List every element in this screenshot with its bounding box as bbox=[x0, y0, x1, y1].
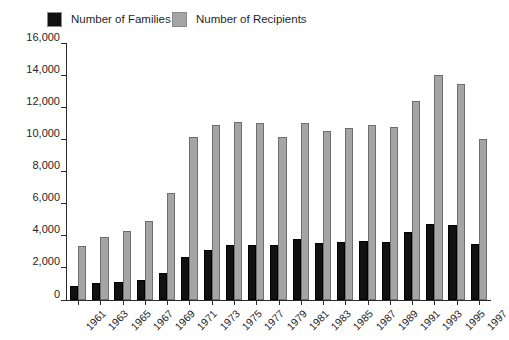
bar-families bbox=[159, 273, 167, 300]
bar-recipients bbox=[234, 122, 242, 300]
bar-recipients bbox=[123, 231, 131, 300]
bar-recipients bbox=[212, 125, 220, 300]
bar-families bbox=[404, 232, 412, 300]
bar-recipients bbox=[167, 193, 175, 300]
bar-group bbox=[379, 43, 401, 300]
x-axis-tick-mark bbox=[301, 301, 302, 305]
x-axis-tick-mark bbox=[390, 301, 391, 305]
x-axis-tick-label: 1967 bbox=[151, 308, 175, 332]
y-axis: 02,0004,0006,0008,00010,00012,00014,0001… bbox=[0, 43, 66, 300]
bar-recipients bbox=[301, 123, 309, 300]
bar-recipients bbox=[78, 246, 86, 300]
y-axis-tick-label: 10,000 bbox=[26, 128, 66, 139]
bar-families bbox=[471, 244, 479, 300]
bar-recipients bbox=[457, 84, 465, 300]
bar-group bbox=[334, 43, 356, 300]
bar-families bbox=[248, 245, 256, 300]
bar-group bbox=[468, 43, 490, 300]
x-axis-tick-mark bbox=[123, 301, 124, 305]
x-axis-tick-label: 1977 bbox=[262, 308, 286, 332]
bar-group bbox=[201, 43, 223, 300]
x-axis-tick-label: 1965 bbox=[128, 308, 152, 332]
bar-families bbox=[137, 280, 145, 300]
x-axis-tick-mark bbox=[212, 301, 213, 305]
x-axis-tick-mark bbox=[189, 301, 190, 305]
bars-layer bbox=[67, 43, 490, 300]
x-axis-tick-label: 1985 bbox=[351, 308, 375, 332]
legend-item-recipients: Number of Recipients bbox=[172, 10, 307, 28]
x-axis-tick-mark bbox=[457, 301, 458, 305]
bar-families bbox=[315, 243, 323, 300]
x-axis-tick-label: 1993 bbox=[440, 308, 464, 332]
legend-label-families: Number of Families bbox=[71, 13, 171, 26]
bar-families bbox=[337, 242, 345, 300]
x-axis-tick-mark bbox=[256, 301, 257, 305]
y-axis-tick-label: 16,000 bbox=[26, 32, 66, 43]
x-axis-tick-label: 1989 bbox=[396, 308, 420, 332]
y-axis-tick-label: 14,000 bbox=[26, 64, 66, 75]
bar-group bbox=[423, 43, 445, 300]
bar-recipients bbox=[479, 139, 487, 300]
bar-group bbox=[290, 43, 312, 300]
x-axis-tick-label: 1961 bbox=[84, 308, 108, 332]
x-axis-tick-label: 1973 bbox=[218, 308, 242, 332]
x-axis-tick-mark bbox=[479, 301, 480, 305]
x-axis-tick-label: 1969 bbox=[173, 308, 197, 332]
bar-families bbox=[359, 241, 367, 300]
bar-group bbox=[156, 43, 178, 300]
bar-families bbox=[204, 250, 212, 300]
bar-group bbox=[445, 43, 467, 300]
x-axis-tick-mark bbox=[345, 301, 346, 305]
bar-recipients bbox=[145, 221, 153, 301]
bar-recipients bbox=[278, 137, 286, 300]
x-axis-tick-label: 1975 bbox=[240, 308, 264, 332]
bar-recipients bbox=[189, 137, 197, 300]
legend-swatch-families bbox=[47, 12, 62, 27]
x-axis-tick-label: 1987 bbox=[373, 308, 397, 332]
bar-group bbox=[267, 43, 289, 300]
x-axis-tick-mark bbox=[279, 301, 280, 305]
bar-group bbox=[67, 43, 89, 300]
bar-families bbox=[181, 257, 189, 300]
bar-recipients bbox=[368, 125, 376, 300]
x-axis-tick-label: 1997 bbox=[485, 308, 509, 332]
x-axis-tick-label: 1971 bbox=[195, 308, 219, 332]
y-axis-tick-label: 4,000 bbox=[32, 224, 66, 235]
bar-group bbox=[178, 43, 200, 300]
bar-recipients bbox=[434, 75, 442, 300]
x-axis-tick-mark bbox=[234, 301, 235, 305]
bar-families bbox=[114, 282, 122, 300]
y-axis-tick-label: 2,000 bbox=[32, 256, 66, 267]
bar-recipients bbox=[256, 123, 264, 300]
bar-recipients bbox=[412, 101, 420, 300]
x-axis-tick-label: 1995 bbox=[462, 308, 486, 332]
bar-families bbox=[226, 245, 234, 300]
x-axis-tick-label: 1991 bbox=[418, 308, 442, 332]
bar-group bbox=[356, 43, 378, 300]
x-axis-tick-mark bbox=[78, 301, 79, 305]
x-axis-tick-mark bbox=[145, 301, 146, 305]
x-axis-tick-mark bbox=[412, 301, 413, 305]
bar-group bbox=[112, 43, 134, 300]
chart-legend: Number of Families Number of Recipients bbox=[0, 10, 498, 36]
y-axis-tick-label: 12,000 bbox=[26, 96, 66, 107]
legend-swatch-recipients bbox=[172, 12, 187, 27]
bar-families bbox=[382, 242, 390, 300]
bar-group bbox=[312, 43, 334, 300]
x-axis-tick-label: 1963 bbox=[106, 308, 130, 332]
bar-families bbox=[426, 224, 434, 300]
bar-recipients bbox=[390, 127, 398, 300]
x-axis-tick-mark bbox=[167, 301, 168, 305]
x-axis-tick-mark bbox=[323, 301, 324, 305]
x-axis: 1961196319651967196919711973197519771979… bbox=[67, 301, 490, 340]
x-axis-tick-label: 1981 bbox=[307, 308, 331, 332]
bar-recipients bbox=[323, 131, 331, 300]
bar-families bbox=[293, 239, 301, 300]
x-axis-tick-mark bbox=[100, 301, 101, 305]
bar-families bbox=[448, 225, 456, 300]
y-axis-tick-label: 6,000 bbox=[32, 192, 66, 203]
bar-group bbox=[134, 43, 156, 300]
bar-families bbox=[70, 286, 78, 300]
legend-item-families: Number of Families bbox=[47, 10, 171, 28]
